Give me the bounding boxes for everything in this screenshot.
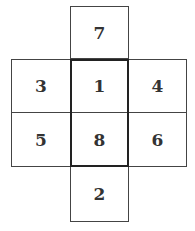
net-cell-top: 7 — [70, 6, 129, 59]
net-cell-row2-right: 6 — [128, 112, 187, 167]
net-cell-row1-right: 4 — [128, 59, 187, 113]
net-cell-row1-center: 1 — [70, 59, 129, 113]
net-cell-row2-left: 5 — [11, 112, 71, 167]
net-cell-bottom: 2 — [70, 166, 129, 222]
net-cell-row2-center: 8 — [70, 112, 129, 167]
net-cell-row1-left: 3 — [11, 59, 71, 113]
